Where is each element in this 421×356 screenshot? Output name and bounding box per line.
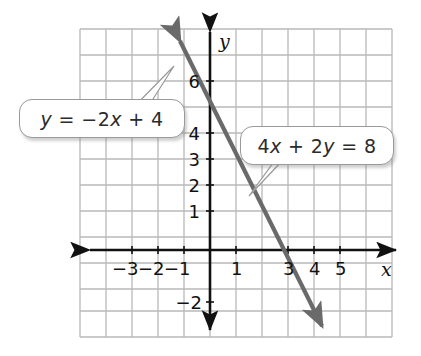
- grid-lines: [80, 29, 392, 337]
- y-tick-4: 4: [189, 123, 200, 144]
- x-tick-neg2: −2: [138, 258, 165, 279]
- axis-lines: [90, 32, 396, 330]
- y-tick-1: 1: [189, 201, 200, 222]
- y-axis-label: y: [218, 30, 230, 52]
- graph-figure: 6 4 3 2 1 −2 −3 −2 −1 1 3 4 5 x y y = −2…: [0, 0, 421, 356]
- callout-2-text: 4x + 2y = 8: [253, 135, 380, 157]
- y-tick-6: 6: [189, 71, 200, 92]
- coordinate-plane: 6 4 3 2 1 −2 −3 −2 −1 1 3 4 5 x y: [0, 0, 421, 356]
- y-tick-neg2: −2: [175, 292, 202, 313]
- x-axis-label: x: [381, 258, 392, 280]
- x-tick-neg3: −3: [112, 258, 139, 279]
- x-tick-3: 3: [283, 258, 294, 279]
- callout-1-text: y = −2x + 4: [36, 108, 167, 130]
- plotted-line: [180, 41, 322, 326]
- y-tick-3: 3: [189, 149, 200, 170]
- callout-equation-slope-intercept: y = −2x + 4: [19, 99, 185, 138]
- x-tick-4: 4: [309, 258, 320, 279]
- x-tick-1: 1: [231, 258, 242, 279]
- callout-equation-standard: 4x + 2y = 8: [240, 126, 394, 165]
- y-tick-2: 2: [189, 175, 200, 196]
- x-tick-neg1: −1: [164, 258, 191, 279]
- x-tick-5: 5: [335, 258, 346, 279]
